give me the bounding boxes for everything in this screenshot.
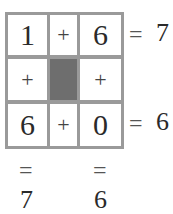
row3-result: 6 [156,109,169,135]
col3-equals: = [93,158,107,182]
row3-equals: = [129,111,143,135]
plus-operator: + [21,69,33,91]
puzzle-grid: 1 + 6 + + 6 + 0 [5,12,124,149]
col1-result: 7 [20,187,33,213]
number: 6 [93,20,108,50]
plus-operator: + [57,114,69,136]
cell-r3-c2: + [50,104,77,146]
number: 6 [20,110,35,140]
cell-r3-c1: 6 [8,104,47,146]
row1-equals: = [129,22,143,46]
cell-r3-c3: 0 [80,104,121,146]
col3-result: 6 [94,187,107,213]
number: 0 [93,110,108,140]
cell-r1-c3: 6 [80,15,121,55]
cell-r1-c2: + [50,15,77,55]
plus-operator: + [57,24,69,46]
cell-r2-c1: + [8,59,47,100]
row1-result: 7 [156,20,169,46]
col1-equals: = [19,158,33,182]
number: 1 [20,20,35,50]
cell-r2-c3: + [80,59,121,100]
shaded-cell [50,59,77,100]
plus-operator: + [94,69,106,91]
cell-r1-c1: 1 [8,15,47,55]
